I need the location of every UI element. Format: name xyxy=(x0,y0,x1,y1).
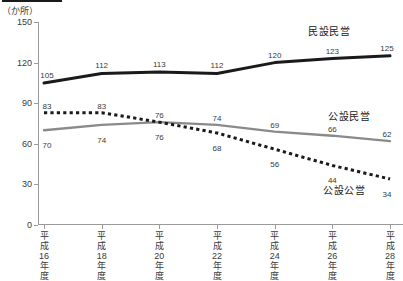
y-tick-label: 120 xyxy=(17,58,32,67)
x-category-line: 成 xyxy=(379,241,401,251)
x-category-line: 年 xyxy=(264,261,286,271)
value-label: 105 xyxy=(40,72,53,80)
x-category-line: 平 xyxy=(91,231,113,241)
x-category-line: 年 xyxy=(379,261,401,271)
y-axis-unit-label: （か所） xyxy=(2,6,38,16)
value-label: 112 xyxy=(95,62,108,70)
x-category-line: 年 xyxy=(206,261,228,271)
x-category-label: 平成16年度 xyxy=(33,231,55,281)
value-label: 34 xyxy=(383,191,392,199)
x-category-line: 20 xyxy=(148,251,170,261)
x-category-line: 年 xyxy=(91,261,113,271)
x-category-line: 年 xyxy=(148,261,170,271)
value-label: 56 xyxy=(270,161,279,169)
x-category-line: 成 xyxy=(206,241,228,251)
x-category-label: 平成26年度 xyxy=(321,231,343,281)
x-category-line: 平 xyxy=(321,231,343,241)
x-category-line: 成 xyxy=(33,241,55,251)
value-label: 74 xyxy=(213,115,222,123)
value-label: 68 xyxy=(213,145,222,153)
y-tick-label: 90 xyxy=(22,99,32,108)
value-label: 113 xyxy=(153,61,166,69)
chart-plot-area: 1501209060300 10511211311212012312570747… xyxy=(38,22,403,225)
x-category-line: 平 xyxy=(33,231,55,241)
x-category-label: 平成20年度 xyxy=(148,231,170,281)
x-category-line: 平 xyxy=(148,231,170,241)
series-label-2: 公設民営 xyxy=(328,111,370,122)
y-tick-label: 30 xyxy=(22,180,32,189)
value-label: 125 xyxy=(380,45,393,53)
series-label-3: 公設公営 xyxy=(323,185,365,196)
y-tick-label: 150 xyxy=(17,18,32,27)
y-tick-label: 60 xyxy=(22,139,32,148)
value-label: 66 xyxy=(328,126,337,134)
y-tick-mark xyxy=(34,225,38,226)
x-tick-mark xyxy=(44,225,45,229)
x-category-line: 年 xyxy=(33,261,55,271)
x-tick-mark xyxy=(102,225,103,229)
value-label: 62 xyxy=(383,131,392,139)
x-category-line: 年 xyxy=(321,261,343,271)
y-tick-label: 0 xyxy=(27,221,32,230)
x-tick-mark xyxy=(217,225,218,229)
value-label: 120 xyxy=(268,52,281,60)
x-category-line: 度 xyxy=(148,271,170,281)
x-category-line: 平 xyxy=(206,231,228,241)
x-category-line: 度 xyxy=(379,271,401,281)
x-category-line: 度 xyxy=(206,271,228,281)
series-label-1: 民設民営 xyxy=(308,26,350,37)
x-category-line: 成 xyxy=(148,241,170,251)
value-label: 112 xyxy=(211,62,224,70)
x-category-line: 平 xyxy=(264,231,286,241)
x-category-line: 度 xyxy=(321,271,343,281)
x-category-line: 18 xyxy=(91,251,113,261)
value-label: 70 xyxy=(43,142,52,150)
x-tick-mark xyxy=(332,225,333,229)
x-category-line: 度 xyxy=(33,271,55,281)
value-label: 74 xyxy=(97,137,106,145)
x-category-line: 24 xyxy=(264,251,286,261)
x-category-line: 度 xyxy=(264,271,286,281)
x-category-line: 成 xyxy=(91,241,113,251)
x-tick-mark xyxy=(159,225,160,229)
x-tick-mark xyxy=(275,225,276,229)
x-category-line: 成 xyxy=(321,241,343,251)
x-category-line: 平 xyxy=(379,231,401,241)
x-category-line: 28 xyxy=(379,251,401,261)
x-category-label: 平成24年度 xyxy=(264,231,286,281)
x-category-line: 26 xyxy=(321,251,343,261)
x-category-line: 度 xyxy=(91,271,113,281)
x-category-line: 16 xyxy=(33,251,55,261)
value-label: 123 xyxy=(326,48,339,56)
value-label: 76 xyxy=(155,112,164,120)
value-label: 76 xyxy=(155,134,164,142)
x-category-label: 平成28年度 xyxy=(379,231,401,281)
value-label: 83 xyxy=(43,103,52,111)
x-tick-mark xyxy=(390,225,391,229)
x-category-label: 平成22年度 xyxy=(206,231,228,281)
x-category-line: 成 xyxy=(264,241,286,251)
header-rule xyxy=(2,0,62,2)
x-category-line: 22 xyxy=(206,251,228,261)
value-label: 83 xyxy=(97,103,106,111)
x-category-label: 平成18年度 xyxy=(91,231,113,281)
value-label: 69 xyxy=(270,122,279,130)
